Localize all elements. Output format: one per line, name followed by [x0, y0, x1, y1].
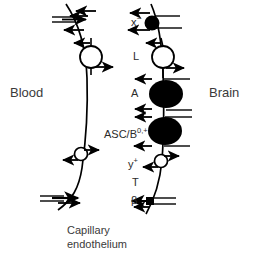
transporter-A-right	[135, 79, 192, 110]
label-blood: Blood	[10, 86, 43, 99]
luminal-membrane-line	[58, 4, 87, 210]
label-y-plus: y+	[128, 157, 138, 170]
label-T: T	[132, 177, 139, 188]
label-A: A	[131, 88, 138, 99]
open-circle-symbol	[80, 46, 102, 68]
caption-line-1: Capillary	[67, 224, 127, 238]
label-x-minus: x−	[131, 14, 142, 28]
caption-line-2: endothelium	[67, 238, 127, 252]
transporter-beta-right	[132, 197, 176, 207]
figure-caption: Capillary endothelium	[67, 224, 127, 252]
transporter-y-plus-left	[63, 148, 99, 161]
filled-oval-symbol	[148, 117, 182, 145]
label-asc-b0plus: ASC/B0,+	[104, 127, 148, 140]
label-y-plus-sup: +	[134, 156, 138, 165]
filled-circle-symbol	[145, 16, 160, 31]
label-beta: β	[131, 195, 137, 206]
label-asc-b0plus-sup: 0,+	[137, 126, 148, 135]
open-circle-symbol	[152, 46, 174, 68]
filled-oval-symbol	[149, 80, 183, 108]
label-L: L	[133, 51, 139, 62]
label-x-minus-sup: −	[137, 13, 142, 23]
label-asc-b0plus-base: ASC/B	[104, 128, 137, 140]
transporter-x-minus-left	[52, 11, 96, 30]
label-brain: Brain	[209, 86, 239, 99]
transporter-beta-left	[40, 196, 80, 203]
transporter-L-right	[146, 38, 184, 78]
transporter-y-plus-right	[143, 155, 179, 168]
transporter-L-left	[74, 38, 113, 75]
